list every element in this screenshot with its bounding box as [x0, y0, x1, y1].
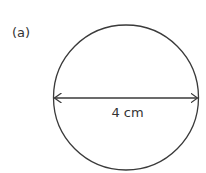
- part-label: (a): [12, 25, 30, 40]
- diameter-label: 4 cm: [111, 105, 143, 120]
- circle-diagram: (a) 4 cm: [0, 0, 206, 173]
